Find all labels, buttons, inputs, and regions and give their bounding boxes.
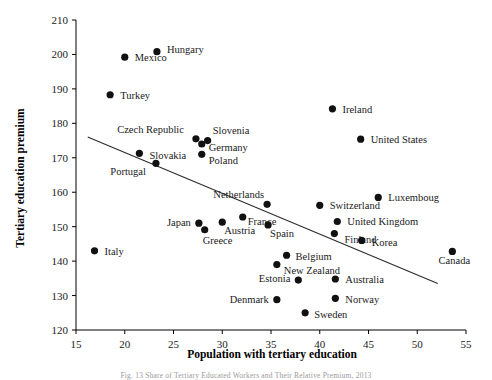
data-point [153,48,160,55]
data-point-label: Ireland [342,104,372,115]
data-point-label: New Zealand [284,265,341,276]
y-tick-label: 120 [52,324,69,336]
data-point [358,237,365,244]
trendline [88,137,438,283]
y-tick-label: 180 [52,117,69,129]
x-axis-ticks: 152025303540455055 [71,330,473,350]
y-tick-label: 190 [52,83,69,95]
data-point-label: Slovakia [149,150,186,161]
data-point [121,54,128,61]
scatter-chart: 120130140150160170180190200210 152025303… [0,0,492,365]
data-point [273,296,280,303]
figure-caption: Fig. 13 Share of Tertiary Educated Worke… [0,371,492,380]
data-point [332,295,339,302]
data-point-label: United States [371,134,427,145]
data-point-label: Hungary [167,44,204,55]
scatter-figure: 120130140150160170180190200210 152025303… [0,0,492,380]
x-tick-label: 45 [363,338,375,350]
data-point-label: Norway [345,294,380,305]
data-point [107,91,114,98]
data-point-label: Netherlands [213,189,264,200]
data-point-label: United Kingdom [347,216,418,227]
data-point-label: Czech Republic [117,124,184,135]
data-point-label: Poland [209,155,239,166]
data-point [201,226,208,233]
x-axis-title: Population with tertiary education [187,348,357,361]
data-point [198,140,205,147]
data-point-label: Turkey [120,90,151,101]
y-tick-label: 130 [52,290,69,302]
x-tick-label: 55 [461,338,473,350]
x-tick-label: 25 [168,338,180,350]
data-point-label: Switzerland [330,200,381,211]
data-point [192,135,199,142]
data-point-label: Greece [203,235,233,246]
data-point [195,220,202,227]
data-point [283,252,290,259]
data-point [264,201,271,208]
data-point [198,151,205,158]
data-point [357,136,364,143]
y-tick-label: 200 [52,48,69,60]
data-point-label: Sweden [314,309,348,320]
data-point-label: Australia [345,274,384,285]
y-tick-label: 160 [52,186,69,198]
data-point [91,247,98,254]
data-point-label: Canada [439,255,471,266]
data-point-label: Germany [209,142,249,153]
data-point [329,105,336,112]
data-point [316,202,323,209]
data-point [136,150,143,157]
data-point-label: Estonia [259,273,291,284]
y-axis-title: Tertiary education premium [14,108,27,248]
data-point-label: Slovenia [213,125,250,136]
y-tick-label: 150 [52,221,69,233]
data-point [449,248,456,255]
y-tick-label: 210 [52,14,69,26]
data-point [302,309,309,316]
data-point-label: Korea [372,237,398,248]
data-point [239,213,246,220]
data-point-label: Japan [167,217,192,228]
data-point-label: Denmark [230,294,270,305]
data-point-label: Spain [270,228,295,239]
y-axis-ticks: 120130140150160170180190200210 [52,14,77,336]
x-tick-label: 20 [119,338,131,350]
x-tick-label: 15 [71,338,83,350]
data-point-label: Mexico [135,52,167,63]
y-tick-label: 140 [52,255,69,267]
data-point [295,276,302,283]
y-tick-label: 170 [52,152,69,164]
x-tick-label: 50 [412,338,424,350]
data-point-label: Luxemboug [388,192,439,203]
data-point-label: Italy [105,246,125,257]
data-point-label: Portugal [110,166,146,177]
data-point [331,230,338,237]
data-point-label: Belgium [296,251,332,262]
data-point [334,218,341,225]
data-point [152,160,159,167]
data-point [332,275,339,282]
data-point [273,261,280,268]
data-points: MexicoHungaryTurkeyIrelandUnited StatesC… [91,44,470,320]
